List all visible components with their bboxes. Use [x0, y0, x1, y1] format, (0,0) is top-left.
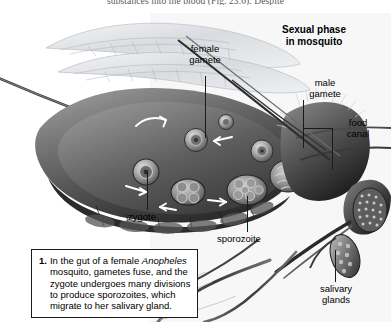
- figure-page: substances into the blood (Fig. 23.6). D…: [0, 0, 391, 322]
- caption-line-1: In the gut of a female: [50, 255, 142, 266]
- caption-line-4: to produce sporozoites, which: [50, 289, 176, 300]
- leader-salivary-glands: [335, 250, 336, 282]
- caption-line-2: mosquito, gametes fuse, and the: [50, 266, 188, 277]
- caption-box: 1. In the gut of a female Anophelesmosqu…: [31, 249, 198, 318]
- label-food-canal: food canal: [337, 118, 379, 139]
- cell-male-gamete: [251, 140, 273, 162]
- label-sporozoite: sporozoite: [217, 234, 279, 245]
- caption-number: 1.: [39, 255, 50, 311]
- caption-organism-name: Anopheles: [142, 255, 187, 266]
- leader-female-gamete: [205, 76, 206, 138]
- caption-line-5: migrate to her salivary gland.: [50, 300, 172, 311]
- compound-eye: [353, 188, 387, 232]
- leader-male-gamete: [303, 100, 304, 148]
- leader-food-canal-elbow: [303, 128, 333, 129]
- leader-food-canal: [332, 128, 333, 170]
- cell-small-upper: [219, 115, 234, 130]
- leader-zygote: [147, 172, 148, 210]
- label-female-gamete: female gamete: [179, 44, 231, 65]
- leader-sporozoite: [247, 196, 248, 232]
- label-salivary-glands: salivary glands: [310, 284, 362, 305]
- caption-text: In the gut of a female Anophelesmosquito…: [50, 255, 190, 311]
- label-male-gamete: male gamete: [303, 78, 347, 99]
- cell-dividing-zygote: [171, 179, 205, 205]
- page-body-text-excerpt: substances into the blood (Fig. 23.6). D…: [0, 0, 391, 5]
- figure-heading: Sexual phase in mosquito: [258, 24, 370, 47]
- caption-line-3: zygote undergoes many divisions: [50, 278, 190, 289]
- label-zygote: zygote: [128, 212, 174, 223]
- cell-zygote: [133, 159, 159, 185]
